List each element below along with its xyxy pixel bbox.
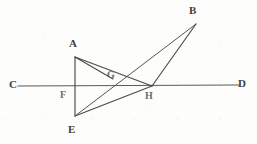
vertex-label-A: A — [69, 38, 77, 49]
segment-layer — [18, 24, 239, 116]
geometry-figure — [0, 0, 257, 144]
vertex-label-F: F — [60, 90, 66, 100]
line-E-H — [75, 86, 152, 116]
vertex-label-G: G — [107, 70, 115, 80]
line-C-D — [18, 85, 239, 86]
vertex-label-C: C — [9, 79, 17, 90]
line-E-B — [75, 24, 196, 116]
vertex-label-E: E — [68, 124, 76, 135]
figure-page: ABCDEFGH — [0, 0, 257, 144]
vertex-label-D: D — [238, 78, 246, 89]
line-H-B — [152, 24, 196, 86]
vertex-label-B: B — [189, 5, 197, 16]
vertex-label-H: H — [145, 91, 153, 101]
